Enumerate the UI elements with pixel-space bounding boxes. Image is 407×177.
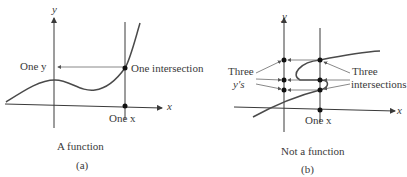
- panel-b-one-x-label: One x: [305, 114, 332, 126]
- intersections-label: intersections: [351, 78, 407, 90]
- x-axis: [5, 104, 162, 108]
- panel-a-x-axis-label: x: [167, 100, 172, 112]
- panel-b-caption: Not a function: [281, 145, 345, 157]
- x-dot: [123, 104, 128, 109]
- three-right-label: Three: [352, 65, 378, 77]
- one-intersection-label: One intersection: [131, 62, 203, 74]
- one-y-label: One y: [20, 60, 47, 72]
- panel-b-x-axis-label: x: [397, 104, 402, 116]
- panel-a-y-axis-label: y: [52, 3, 57, 15]
- three-label: Three: [228, 65, 254, 77]
- x-axis: [234, 107, 395, 111]
- panel-a-one-x-label: One x: [109, 112, 136, 124]
- panel-a-tag: (a): [76, 159, 88, 171]
- panel-b-tag: (b): [301, 163, 314, 175]
- ys-label: y's: [233, 78, 245, 90]
- panel-a-caption: A function: [57, 140, 104, 152]
- panel-b-y-axis-label: y: [282, 10, 287, 22]
- intersection-dot: [123, 66, 128, 71]
